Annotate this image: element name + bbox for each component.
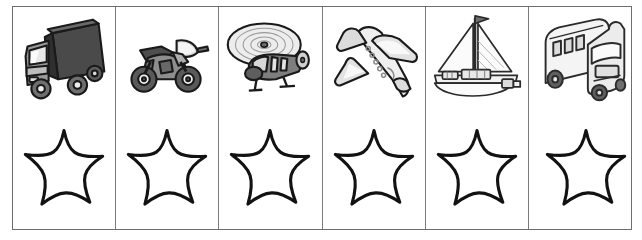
star-cell-6[interactable]	[529, 114, 631, 229]
vehicle-cell-4[interactable]	[323, 7, 425, 114]
star-cell-4[interactable]	[323, 114, 425, 229]
bus-icon	[536, 12, 631, 108]
worksheet-column-3	[219, 7, 322, 229]
helicopter-icon	[222, 12, 318, 108]
worksheet-column-2	[116, 7, 219, 229]
motorcycle-icon	[119, 12, 215, 108]
worksheet-column-1	[13, 7, 116, 229]
vehicle-cell-3[interactable]	[219, 7, 321, 114]
worksheet-column-5	[426, 7, 529, 229]
vehicle-cell-2[interactable]	[116, 7, 218, 114]
vehicle-cell-1[interactable]	[13, 7, 115, 114]
vehicle-cell-6[interactable]	[529, 7, 631, 114]
sailboat-icon	[429, 12, 525, 108]
worksheet-page	[0, 0, 642, 240]
star-outline-6	[540, 125, 631, 217]
star-outline-1	[18, 125, 110, 217]
star-cell-3[interactable]	[219, 114, 321, 229]
star-outline-4	[328, 125, 420, 217]
star-cell-1[interactable]	[13, 114, 115, 229]
worksheet-grid	[12, 6, 632, 230]
star-cell-2[interactable]	[116, 114, 218, 229]
star-cell-5[interactable]	[426, 114, 528, 229]
vehicle-cell-5[interactable]	[426, 7, 528, 114]
worksheet-column-6	[529, 7, 631, 229]
star-outline-3	[224, 125, 316, 217]
star-outline-5	[431, 125, 523, 217]
star-outline-2	[121, 125, 213, 217]
worksheet-column-4	[323, 7, 426, 229]
truck-icon	[16, 12, 112, 108]
airplane-icon	[326, 12, 422, 108]
